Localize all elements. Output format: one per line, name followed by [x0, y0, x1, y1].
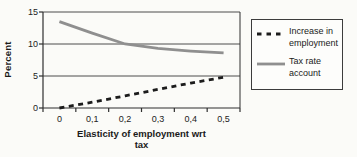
chart: Percent Elasticity of employment wrt tax… — [0, 0, 357, 157]
x-tick-label: 0,5 — [209, 114, 239, 124]
x-axis-title-text: Elasticity of employment wrt tax — [76, 128, 208, 150]
legend-entry-increase-in-employment: Increase in employment — [256, 26, 339, 49]
x-tick-label: 0,4 — [176, 114, 206, 124]
y-axis-title: Percent — [2, 12, 13, 108]
legend-label: Tax rate account — [286, 56, 339, 79]
y-tick-label: 15 — [12, 7, 38, 17]
x-tick-label: 0,3 — [143, 114, 173, 124]
y-tick-label: 0 — [12, 103, 38, 113]
legend: Increase in employment Tax rate account — [251, 19, 343, 90]
y-tick-label: 5 — [12, 71, 38, 81]
x-tick-label: 0 — [44, 114, 74, 124]
legend-label: Increase in employment — [286, 26, 339, 49]
x-tick-label: 0,2 — [110, 114, 140, 124]
x-axis-title: Elasticity of employment wrt tax — [43, 128, 240, 150]
x-tick-label: 0,1 — [77, 114, 107, 124]
series-line-tax-rate-account — [59, 22, 223, 53]
dashed-line-marker-icon — [256, 29, 286, 39]
legend-entry-tax-rate-account: Tax rate account — [256, 56, 339, 79]
y-tick-label: 10 — [12, 39, 38, 49]
solid-line-marker-icon — [256, 59, 286, 69]
series-line-increase-in-employment — [59, 77, 223, 108]
